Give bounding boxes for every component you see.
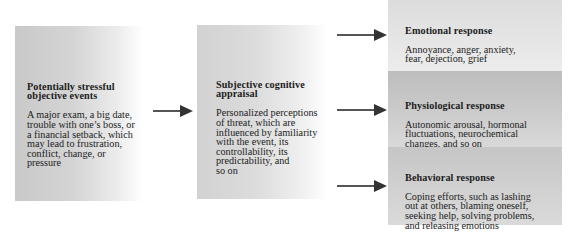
arrow-right-icon [337, 180, 387, 192]
emotional-response-description: Annoyance, anger, anxiety, fear, dejecti… [405, 45, 560, 64]
arrow-right-icon [153, 105, 193, 117]
behavioral-response-text: Behavioral response Coping efforts, such… [405, 163, 562, 236]
stressor-title: Potentially stressful objective events [27, 82, 142, 101]
arrow-right-icon [337, 104, 387, 116]
appraisal-title: Subjective cognitive appraisal [216, 80, 328, 99]
appraisal-text: Subjective cognitive appraisal Personali… [216, 70, 328, 185]
physiological-response-title: Physiological response [405, 101, 560, 111]
appraisal-description: Personalized perceptions of threat, whic… [216, 108, 328, 175]
arrow-right-icon [337, 29, 387, 41]
physiological-response-description: Autonomic arousal, hormonal fluctuations… [405, 120, 560, 149]
emotional-response-text: Emotional response Annoyance, anger, anx… [405, 16, 560, 74]
behavioral-response-description: Coping efforts, such as lashing out at o… [405, 192, 562, 230]
stressor-text: Potentially stressful objective events A… [27, 72, 142, 178]
stressor-description: A major exam, a big date, trouble with o… [27, 110, 142, 168]
emotional-response-title: Emotional response [405, 26, 560, 36]
behavioral-response-title: Behavioral response [405, 173, 562, 183]
